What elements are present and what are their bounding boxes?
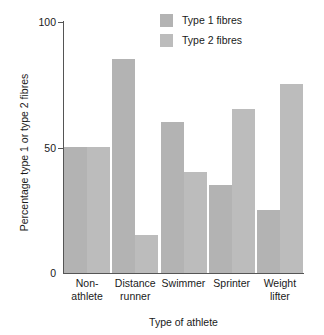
plot-area xyxy=(63,21,304,273)
y-tick-label-100: 100 xyxy=(38,17,56,28)
bar-distance-runner-type-2-fibres xyxy=(135,235,158,273)
x-axis-label-line-1: Weight xyxy=(256,277,304,290)
bar-weight-lifter-type-1-fibres xyxy=(257,210,280,273)
x-axis-label-line-1: Non- xyxy=(63,277,111,290)
bar-non-athlete-type-2-fibres xyxy=(87,147,110,273)
x-axis-label-line-1: Sprinter xyxy=(208,277,256,290)
x-axis-label-line-1: Distance xyxy=(111,277,159,290)
x-axis-label-line-2: athlete xyxy=(63,290,111,303)
x-axis-labels: Non-athleteDistancerunnerSwimmerSprinter… xyxy=(63,277,304,317)
x-axis-label-weight-lifter: Weightlifter xyxy=(256,277,304,302)
y-tick-100: 100 xyxy=(0,17,56,28)
x-axis-label-line-2: lifter xyxy=(256,290,304,303)
bar-swimmer-type-2-fibres xyxy=(184,172,207,273)
bar-sprinter-type-1-fibres xyxy=(209,185,232,273)
bar-chart: Type 1 fibres Type 2 fibres Percentage t… xyxy=(0,0,324,335)
y-tick-0: 0 xyxy=(0,268,56,279)
x-axis-line xyxy=(63,273,304,274)
bar-sprinter-type-2-fibres xyxy=(232,109,255,273)
y-tick-label-50: 50 xyxy=(44,143,56,154)
bar-weight-lifter-type-2-fibres xyxy=(280,84,303,273)
x-axis-title: Type of athlete xyxy=(63,316,304,328)
x-axis-label-swimmer: Swimmer xyxy=(159,277,207,290)
x-axis-label-line-2: runner xyxy=(111,290,159,303)
bar-distance-runner-type-1-fibres xyxy=(112,59,135,273)
y-tick-50: 50 xyxy=(0,143,56,154)
x-axis-label-distance-runner: Distancerunner xyxy=(111,277,159,302)
x-axis-label-non-athlete: Non-athlete xyxy=(63,277,111,302)
x-axis-label-sprinter: Sprinter xyxy=(208,277,256,290)
x-axis-label-line-1: Swimmer xyxy=(159,277,207,290)
bar-swimmer-type-1-fibres xyxy=(161,122,184,273)
y-tick-label-0: 0 xyxy=(50,268,56,279)
bar-non-athlete-type-1-fibres xyxy=(64,147,87,273)
